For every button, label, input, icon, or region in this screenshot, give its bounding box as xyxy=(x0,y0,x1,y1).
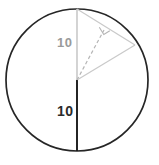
lower-radius-label: 10 xyxy=(57,104,74,118)
figure-canvas xyxy=(0,0,159,165)
upper-radius-label: 10 xyxy=(57,36,72,49)
circle-geometry-figure: 10 10 xyxy=(0,0,159,165)
radius-to-right-vertex xyxy=(77,45,135,80)
